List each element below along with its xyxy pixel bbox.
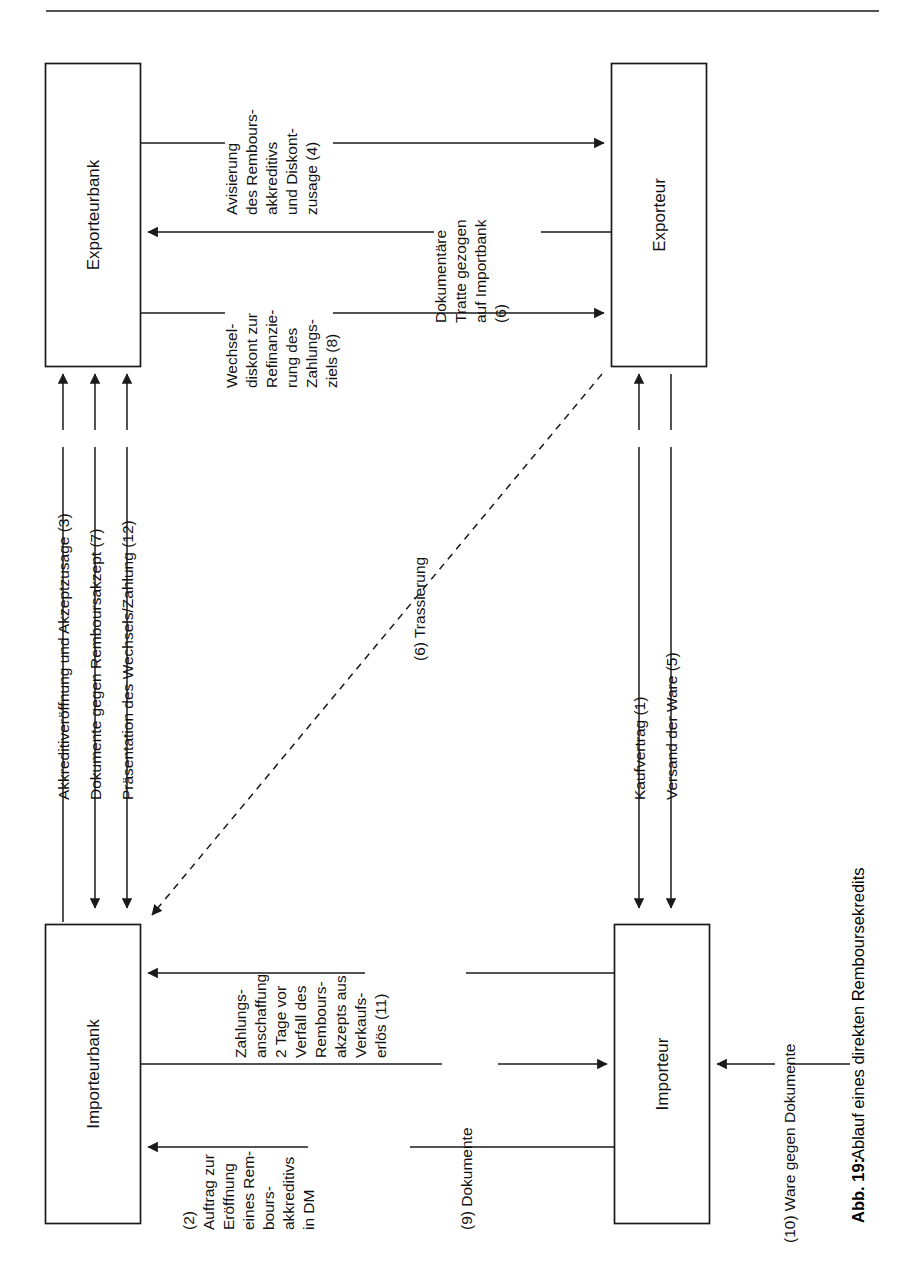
label-exporteurbank: Exporteurbank [84, 159, 103, 270]
svg-text:Eröffnung: Eröffnung [220, 1163, 237, 1230]
svg-text:Verfall des: Verfall des [292, 985, 309, 1058]
svg-text:Ablauf eines direkten Rembours: Ablauf eines direkten Remboursekredits [849, 867, 867, 1160]
svg-text:Wechsel-: Wechsel- [223, 324, 240, 388]
label-flow-6: Dokumentäre Tratte gezogen auf Importban… [432, 219, 509, 323]
svg-text:ziels (8): ziels (8) [323, 334, 340, 388]
svg-text:bours-: bours- [260, 1186, 277, 1230]
label-flow-4: Avisierung des Rembours- akkreditivs und… [223, 109, 320, 215]
svg-text:2 Tage vor: 2 Tage vor [272, 986, 289, 1058]
svg-text:(2): (2) [180, 1211, 197, 1230]
label-flow-5: Versand der Ware (5) [663, 652, 680, 800]
svg-text:Avisierung: Avisierung [223, 143, 240, 215]
svg-text:zusage (4): zusage (4) [303, 142, 320, 215]
svg-text:Tratte gezogen: Tratte gezogen [452, 219, 469, 323]
svg-text:Dokumentäre: Dokumentäre [432, 230, 449, 323]
svg-text:Abb. 19:: Abb. 19: [849, 1158, 867, 1223]
figure-caption: Abb. 19: Ablauf eines direkten Rembourse… [849, 867, 867, 1223]
svg-text:Verkaufs-: Verkaufs- [352, 993, 369, 1058]
svg-text:akkreditivs: akkreditivs [263, 142, 280, 215]
label-flow-11: Zahlungs- anschaffung 2 Tage vor Verfall… [232, 974, 389, 1058]
label-flow-2: (2) Auftrag zur Eröffnung eines Rem- bou… [180, 1151, 317, 1230]
flow-6-trassierung-dashed [152, 374, 602, 915]
svg-text:Rembours-: Rembours- [312, 981, 329, 1058]
label-flow-1: Kaufvertrag (1) [631, 697, 648, 800]
label-importeurbank: Importeurbank [84, 1019, 103, 1129]
svg-text:und Diskont-: und Diskont- [283, 128, 300, 215]
svg-text:akkreditivs: akkreditivs [280, 1157, 297, 1230]
label-importeur: Importeur [653, 1037, 672, 1110]
svg-text:Auftrag zur: Auftrag zur [200, 1154, 217, 1230]
label-flow-6-trassierung: (6) Trassierung [411, 557, 428, 661]
svg-text:in DM: in DM [300, 1190, 317, 1230]
label-flow-12: Präsentation des Wechsels/Zahlung (12) [119, 520, 136, 800]
svg-text:Zahlungs-: Zahlungs- [303, 319, 320, 388]
svg-text:erlös (11): erlös (11) [372, 994, 389, 1058]
svg-text:akzepts aus: akzepts aus [332, 975, 349, 1058]
diagram-canvas: Exporteurbank Exporteur Importeurbank Im… [0, 0, 908, 1270]
label-flow-10: (10) Ware gegen Dokumente [781, 1044, 798, 1243]
svg-text:Refinanzie-: Refinanzie- [263, 310, 280, 388]
svg-text:(6): (6) [492, 304, 509, 323]
svg-text:eines Rem-: eines Rem- [240, 1151, 257, 1230]
label-flow-3: Akkreditiveröffnung und Akzeptzusage (3) [55, 513, 72, 800]
label-flow-8: Wechsel- diskont zur Refinanzie- rung de… [223, 310, 340, 388]
label-flow-7: Dokumente gegen Remboursakzept (7) [87, 529, 104, 800]
svg-text:anschaffung: anschaffung [252, 974, 269, 1058]
svg-text:auf Importbank: auf Importbank [472, 219, 489, 323]
svg-text:des Rembours-: des Rembours- [243, 109, 260, 215]
svg-text:diskont zur: diskont zur [243, 313, 260, 388]
svg-text:rung des: rung des [283, 327, 300, 388]
label-exporteur: Exporteur [650, 178, 669, 252]
svg-text:Zahlungs-: Zahlungs- [232, 989, 249, 1058]
label-flow-9: (9) Dokumente [458, 1127, 475, 1230]
figure-page: Exporteurbank Exporteur Importeurbank Im… [0, 0, 908, 1270]
